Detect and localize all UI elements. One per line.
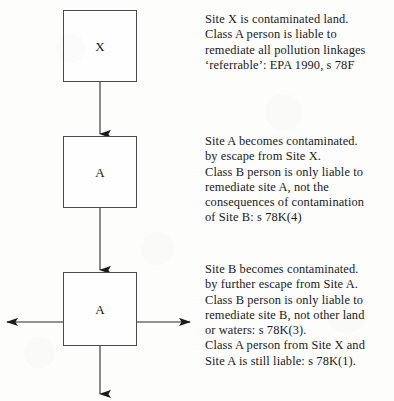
annotation-line: Class A person from Site X and [205, 338, 394, 353]
annotation-line: of Site B: s 78K(4) [205, 210, 394, 225]
node-site-b-label: A [95, 303, 104, 316]
annotation-line: or waters: s 78K(3). [205, 323, 394, 338]
annotation-site-a: Site A becomes contaminated. by escape f… [205, 134, 394, 226]
annotation-line: Class A person is liable to [205, 27, 394, 42]
annotation-line: by further escape from Site A. [205, 277, 394, 292]
node-site-a-label: A [95, 166, 104, 179]
annotation-line: remediate site B, not other land [205, 308, 394, 323]
node-site-a: A [63, 136, 137, 208]
flow-diagram: X A A Site X is contaminated land. Class… [0, 0, 394, 401]
node-site-x-label: X [95, 40, 104, 53]
annotation-line: Class B person is only liable to [205, 165, 394, 180]
annotation-site-b: Site B becomes contaminated. by further … [205, 262, 394, 369]
annotation-line: Site X is contaminated land. [205, 12, 394, 27]
node-site-b: A [63, 272, 137, 346]
annotation-line: consequences of contamination [205, 195, 394, 210]
annotation-line: Site B becomes contaminated. [205, 262, 394, 277]
annotation-line: remediate site A, not the [205, 180, 394, 195]
annotation-line: ‘referrable’: EPA 1990, s 78F [205, 58, 394, 73]
annotation-line: Class B person is only liable to [205, 293, 394, 308]
node-site-x: X [63, 10, 137, 82]
annotation-line: Site A becomes contaminated. [205, 134, 394, 149]
annotation-line: remediate all pollution linkages [205, 43, 394, 58]
annotation-site-x: Site X is contaminated land. Class A per… [205, 12, 394, 73]
annotation-line: Site A is still liable: s 78K(1). [205, 354, 394, 369]
annotation-line: by escape from Site X. [205, 149, 394, 164]
